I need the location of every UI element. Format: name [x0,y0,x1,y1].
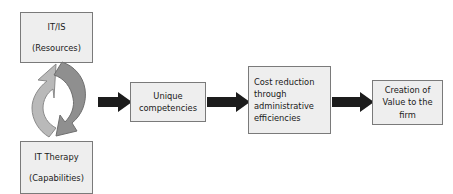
node-it-is-resources-line1: IT/IS [47,21,65,33]
node-it-is-resources-line2: (Resources) [32,42,81,54]
node-it-therapy-capabilities: IT Therapy (Capabilities) [20,141,93,194]
node-cost-reduction-line3: administrative [254,100,314,112]
node-unique-competencies: Unique competencies [130,82,206,122]
node-creation-of-value: Creation of Value to the firm [372,80,443,125]
node-cost-reduction-line4: efficiencies [254,112,301,124]
node-creation-of-value-line3: firm [399,109,416,121]
node-it-therapy-capabilities-line1: IT Therapy [34,151,78,163]
node-cost-reduction: Cost reduction through administrative ef… [248,66,331,134]
node-creation-of-value-line2: Value to the [382,96,432,108]
arrow-to-competencies-icon [98,91,132,113]
node-creation-of-value-line1: Creation of [385,84,431,96]
node-it-therapy-capabilities-line2: (Capabilities) [29,172,84,184]
node-unique-competencies-line2: competencies [139,102,197,114]
diagram-canvas: IT/IS (Resources) IT Therapy (Capabiliti… [0,0,453,194]
cycle-arrows-icon [16,58,100,146]
node-cost-reduction-line2: through [254,88,287,100]
node-cost-reduction-line1: Cost reduction [254,76,314,88]
node-unique-competencies-line1: Unique [153,90,182,102]
node-it-is-resources: IT/IS (Resources) [20,12,93,63]
arrow-to-value-icon [332,91,374,113]
arrow-to-cost-reduction-icon [207,91,250,113]
